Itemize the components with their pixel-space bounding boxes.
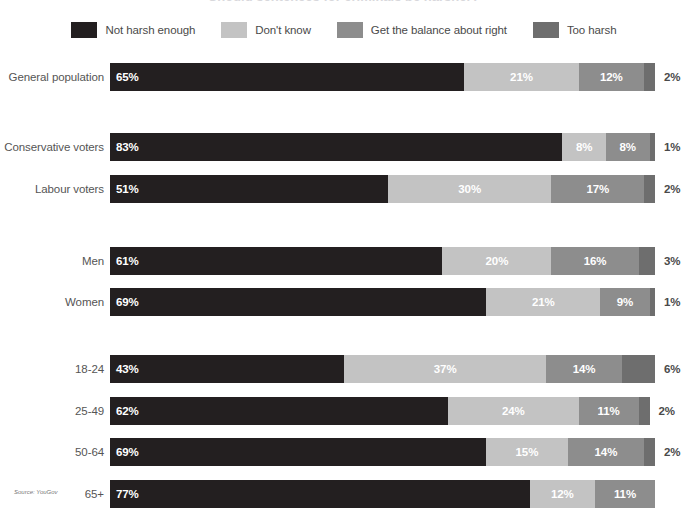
bar-segment[interactable]: 12% <box>579 63 644 91</box>
stacked-bar[interactable]: 65%21%12% <box>110 63 655 91</box>
bar-segment[interactable]: 62% <box>110 397 448 425</box>
bar-segment-value: 9% <box>617 296 633 308</box>
chart-row: 25-4962%24%11%2% <box>0 397 688 425</box>
bar-segment[interactable] <box>644 175 655 203</box>
bar-segment[interactable]: 69% <box>110 438 486 466</box>
bar-segment[interactable] <box>644 438 655 466</box>
bar-segment-value: 8% <box>576 141 592 153</box>
chart-row: Conservative voters83%8%8%1% <box>0 133 688 161</box>
legend-item-0[interactable]: Not harsh enough <box>71 22 195 38</box>
bar-segment-value: 11% <box>614 488 636 500</box>
bar-segment-value: 77% <box>110 488 139 500</box>
bar-segment[interactable]: 24% <box>448 397 579 425</box>
bar-segment[interactable]: 69% <box>110 288 486 316</box>
bar-segment[interactable]: 83% <box>110 133 562 161</box>
bar-segment-value: 12% <box>600 71 623 83</box>
bar-segment[interactable]: 21% <box>486 288 600 316</box>
bar-segment[interactable] <box>639 247 655 275</box>
stacked-bar[interactable]: 77%12%11% <box>110 480 655 508</box>
row-label: Men <box>0 255 110 267</box>
bar-segment[interactable]: 14% <box>546 355 622 383</box>
chart-row: General population65%21%12%2% <box>0 63 688 91</box>
bar-outside-value: 2% <box>655 71 680 83</box>
row-label: Labour voters <box>0 183 110 195</box>
legend-item-label: Don't know <box>255 24 311 36</box>
bar-segment-value: 21% <box>510 71 533 83</box>
bar-outside-value: 1% <box>655 296 680 308</box>
bar-segment[interactable]: 8% <box>562 133 606 161</box>
bar-segment[interactable]: 11% <box>579 397 639 425</box>
stacked-bar[interactable]: 83%8%8% <box>110 133 655 161</box>
bar-segment[interactable]: 61% <box>110 247 442 275</box>
legend-swatch-get-the-balance-about-right <box>337 22 363 38</box>
bar-segment[interactable] <box>650 133 655 161</box>
bar-segment[interactable] <box>650 288 655 316</box>
chart-row: Men61%20%16%3% <box>0 247 688 275</box>
bar-segment[interactable]: 37% <box>344 355 546 383</box>
legend-swatch-not-harsh-enough <box>71 22 97 38</box>
bar-segment[interactable]: 8% <box>606 133 650 161</box>
legend-swatch-too-harsh <box>533 22 559 38</box>
bar-segment[interactable] <box>644 63 655 91</box>
legend-item-label: Not harsh enough <box>105 24 195 36</box>
legend-item-label: Too harsh <box>567 24 617 36</box>
bar-segment-value: 24% <box>502 405 525 417</box>
row-label: Women <box>0 296 110 308</box>
stacked-bar[interactable]: 69%21%9% <box>110 288 655 316</box>
bar-segment-value: 69% <box>110 296 139 308</box>
row-label: General population <box>0 71 110 83</box>
bar-segment[interactable]: 9% <box>600 288 649 316</box>
chart-legend: Not harsh enoughDon't knowGet the balanc… <box>0 22 688 38</box>
bar-segment-value: 14% <box>595 446 618 458</box>
bar-segment-value: 20% <box>486 255 509 267</box>
bar-outside-value: 1% <box>655 141 680 153</box>
row-label: 50-64 <box>0 446 110 458</box>
row-label: Conservative voters <box>0 141 110 153</box>
bar-segment-value: 30% <box>458 183 481 195</box>
bar-segment-value: 69% <box>110 446 139 458</box>
legend-item-1[interactable]: Don't know <box>221 22 311 38</box>
bar-segment[interactable]: 77% <box>110 480 530 508</box>
bar-segment-value: 11% <box>598 405 620 417</box>
bar-segment[interactable]: 20% <box>442 247 551 275</box>
bar-segment[interactable]: 16% <box>551 247 638 275</box>
legend-item-3[interactable]: Too harsh <box>533 22 617 38</box>
bar-segment[interactable] <box>622 355 655 383</box>
chart-row: Labour voters51%30%17%2% <box>0 175 688 203</box>
bar-segment[interactable]: 43% <box>110 355 344 383</box>
chart-row: 50-6469%15%14%2% <box>0 438 688 466</box>
stacked-bar[interactable]: 61%20%16% <box>110 247 655 275</box>
bar-segment-value: 15% <box>516 446 539 458</box>
bar-segment-value: 61% <box>110 255 139 267</box>
bar-segment-value: 8% <box>620 141 636 153</box>
bar-segment[interactable]: 17% <box>551 175 644 203</box>
bar-segment[interactable]: 30% <box>388 175 552 203</box>
bar-segment-value: 16% <box>584 255 607 267</box>
stacked-bar[interactable]: 62%24%11% <box>110 397 650 425</box>
bar-segment[interactable] <box>639 397 650 425</box>
stacked-bar[interactable]: 43%37%14% <box>110 355 655 383</box>
bar-segment-value: 83% <box>110 141 139 153</box>
chart-row: Women69%21%9%1% <box>0 288 688 316</box>
stacked-bar[interactable]: 69%15%14% <box>110 438 655 466</box>
chart-plot-area: General population65%21%12%2%Conservativ… <box>0 55 688 485</box>
legend-item-2[interactable]: Get the balance about right <box>337 22 507 38</box>
bar-segment[interactable]: 21% <box>464 63 578 91</box>
bar-segment-value: 51% <box>110 183 139 195</box>
bar-segment[interactable]: 14% <box>568 438 644 466</box>
bar-segment-value: 14% <box>573 363 596 375</box>
bar-segment[interactable]: 15% <box>486 438 568 466</box>
stacked-bar[interactable]: 51%30%17% <box>110 175 655 203</box>
bar-segment-value: 21% <box>532 296 555 308</box>
bar-segment[interactable]: 12% <box>530 480 595 508</box>
bar-segment-value: 62% <box>110 405 139 417</box>
chart-row: 65+77%12%11% <box>0 480 688 508</box>
chart-row: 18-2443%37%14%6% <box>0 355 688 383</box>
bar-segment[interactable]: 65% <box>110 63 464 91</box>
row-label: 25-49 <box>0 405 110 417</box>
bar-segment[interactable]: 51% <box>110 175 388 203</box>
source-note: Source: YouGov <box>14 489 58 495</box>
row-label: 18-24 <box>0 363 110 375</box>
bar-segment-value: 17% <box>586 183 609 195</box>
bar-segment[interactable]: 11% <box>595 480 655 508</box>
